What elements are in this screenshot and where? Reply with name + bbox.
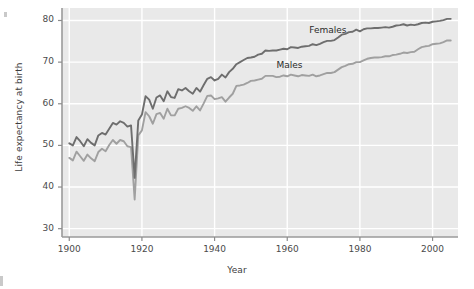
x-tick-label: 1900 [49,244,89,254]
x-tick-label: 2000 [413,244,453,254]
x-tick-label: 1920 [122,244,162,254]
life-expectancy-chart: Life expectancy at birth Year 3040506070… [0,0,474,289]
y-tick-label: 80 [28,14,54,24]
y-tick-label: 60 [28,98,54,108]
x-axis-title: Year [0,265,474,275]
y-tick-label: 30 [28,223,54,233]
x-tick-label: 1940 [195,244,235,254]
y-tick-label: 50 [28,139,54,149]
series-label-females: Females [309,25,346,35]
bottom-left-artifact [0,276,3,286]
y-axis-title: Life expectancy at birth [14,47,24,187]
y-tick-label: 70 [28,56,54,66]
series-label-males: Males [277,60,303,70]
x-tick-label: 1960 [267,244,307,254]
top-left-artifact [4,12,7,17]
x-tick-label: 1980 [340,244,380,254]
y-tick-label: 40 [28,181,54,191]
